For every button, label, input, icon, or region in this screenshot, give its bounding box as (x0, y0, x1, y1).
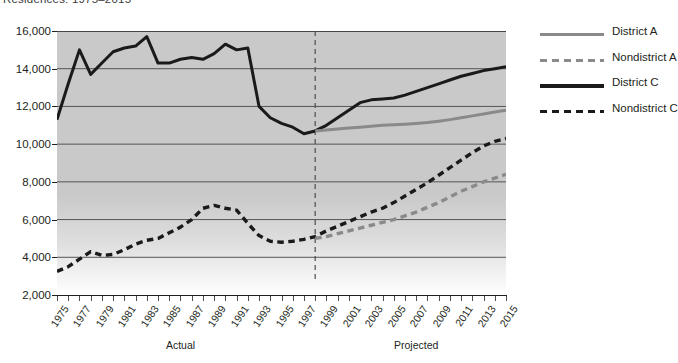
y-axis-tick-label: 2,000 (22, 289, 51, 301)
legend-item: District A (540, 22, 667, 48)
x-axis-tick-label: 1999 (317, 303, 340, 329)
y-axis-tick-label: 14,000 (16, 63, 51, 75)
legend-item-label: Nondistrict A (612, 51, 677, 63)
series-line-district-c (57, 37, 506, 134)
x-axis-tick-mark (158, 296, 159, 301)
x-axis-tick-label: 1979 (93, 303, 116, 329)
x-axis-tick-mark (484, 296, 485, 301)
y-axis-labels: 2,0004,0006,0008,00010,00012,00014,00016… (0, 31, 51, 295)
y-axis-tick-label: 10,000 (16, 138, 51, 150)
x-axis-tick-mark (192, 296, 193, 301)
x-axis-tick-mark (57, 296, 58, 301)
x-axis-tick-mark (270, 296, 271, 301)
x-axis-tick-mark (147, 296, 148, 301)
x-axis-tick-mark (113, 296, 114, 301)
x-axis-tick-mark (439, 296, 440, 301)
x-axis-tick-label: 1983 (138, 303, 161, 329)
legend-item-label: District C (612, 76, 659, 88)
plot-area (57, 31, 506, 295)
x-axis-tick-label: 2015 (497, 303, 520, 329)
x-axis-tick-mark (472, 296, 473, 301)
x-axis-section-label: Actual (166, 339, 195, 351)
x-axis-tick-label: 2001 (340, 303, 363, 329)
legend-item-label: District A (612, 25, 657, 37)
legend-line-swatch (540, 33, 604, 36)
chart-legend: District ANondistrict ADistrict CNondist… (540, 22, 667, 124)
y-axis-tick-label: 8,000 (22, 176, 51, 188)
x-axis-tick-label: 2013 (474, 303, 497, 329)
x-axis-tick-mark (383, 296, 384, 301)
x-axis-tick-label: 1975 (48, 303, 71, 329)
y-axis-tick-mark (52, 106, 57, 107)
x-axis-tick-mark (405, 296, 406, 301)
x-axis-tick-mark (326, 296, 327, 301)
x-axis-tick-mark (214, 296, 215, 301)
x-axis-tick-mark (371, 296, 372, 301)
x-axis-tick-mark (506, 296, 507, 301)
x-axis-tick-label: 2003 (362, 303, 385, 329)
series-line-nondistrict-c (57, 138, 506, 271)
x-axis-tick-label: 2007 (407, 303, 430, 329)
x-axis-tick-mark (315, 296, 316, 301)
x-axis-section-label: Projected (394, 339, 438, 351)
x-axis-tick-label: 2005 (385, 303, 408, 329)
x-axis-tick-mark (360, 296, 361, 301)
x-axis-tick-label: 1989 (205, 303, 228, 329)
x-axis-tick-mark (225, 296, 226, 301)
series-line-nondistrict-a (315, 174, 506, 238)
y-axis-tick-mark (52, 220, 57, 221)
x-axis-tick-mark (68, 296, 69, 301)
y-axis-tick-mark (52, 182, 57, 183)
x-axis-tick-label: 1987 (183, 303, 206, 329)
chart-title: Residences: 1975–2015 (3, 0, 131, 5)
y-axis-tick-label: 4,000 (22, 251, 51, 263)
x-axis-tick-label: 1997 (295, 303, 318, 329)
y-axis-tick-mark (52, 257, 57, 258)
x-axis-tick-mark (293, 296, 294, 301)
x-axis-tick-mark (427, 296, 428, 301)
legend-item-label: Nondistrict C (612, 102, 678, 114)
y-axis-tick-label: 12,000 (16, 100, 51, 112)
x-axis-tick-mark (259, 296, 260, 301)
x-axis-tick-label: 1985 (160, 303, 183, 329)
x-axis-tick-mark (248, 296, 249, 301)
x-axis-tick-mark (79, 296, 80, 301)
x-axis-tick-mark (102, 296, 103, 301)
x-axis-tick-mark (416, 296, 417, 301)
x-axis-tick-mark (237, 296, 238, 301)
legend-line-swatch (540, 110, 604, 114)
x-axis-tick-label: 1993 (250, 303, 273, 329)
legend-item: Nondistrict A (540, 48, 667, 74)
y-axis-tick-label: 6,000 (22, 214, 51, 226)
x-axis-tick-label: 1995 (272, 303, 295, 329)
x-axis-tick-mark (338, 296, 339, 301)
y-axis-tick-mark (52, 144, 57, 145)
x-axis-tick-label: 2011 (452, 303, 475, 328)
x-axis-tick-mark (136, 296, 137, 301)
y-axis-tick-label: 16,000 (16, 25, 51, 37)
x-axis-tick-mark (349, 296, 350, 301)
x-axis-tick-mark (394, 296, 395, 301)
x-axis-tick-label: 1981 (115, 303, 138, 329)
x-axis-tick-mark (495, 296, 496, 301)
x-axis-tick-label: 1991 (228, 303, 251, 329)
x-axis-tick-label: 2009 (430, 303, 453, 329)
x-axis-tick-mark (169, 296, 170, 301)
x-axis-tick-mark (180, 296, 181, 301)
x-axis-tick-label: 1977 (70, 303, 93, 329)
legend-item: Nondistrict C (540, 99, 667, 125)
x-axis-tick-mark (124, 296, 125, 301)
x-axis-tick-mark (203, 296, 204, 301)
y-axis-tick-mark (52, 31, 57, 32)
legend-line-swatch (540, 59, 604, 62)
legend-line-swatch (540, 84, 604, 88)
legend-item: District C (540, 73, 667, 99)
x-axis-tick-mark (450, 296, 451, 301)
x-axis-tick-mark (91, 296, 92, 301)
x-axis-tick-mark (282, 296, 283, 301)
y-axis-tick-mark (52, 69, 57, 70)
plot-lines (57, 31, 506, 295)
x-axis-tick-mark (304, 296, 305, 301)
x-axis-tick-mark (461, 296, 462, 301)
